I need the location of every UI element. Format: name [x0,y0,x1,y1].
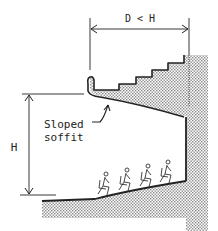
annotation-line2: soffit [44,131,84,144]
dimension-left-label: H [11,141,18,154]
balcony-section-diagram: D < H H Sloped soffit [0,0,218,231]
annotation-line1: Sloped [44,118,84,131]
balcony-mass [90,55,186,116]
dimension-top-label: D < H [125,13,155,24]
